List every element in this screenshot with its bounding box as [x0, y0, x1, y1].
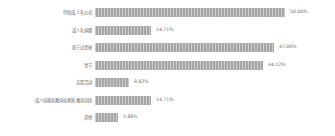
bar-value-label: 44.12%	[268, 61, 286, 68]
bar-value-label: 5.88%	[123, 113, 138, 120]
bar-value-label: 8.82%	[134, 78, 149, 85]
bar-row: 志愿活动 8.82%	[0, 77, 335, 89]
bar[interactable]	[95, 26, 151, 35]
category-label: 其他	[0, 115, 92, 121]
bar[interactable]	[95, 78, 129, 87]
bar-track	[95, 26, 151, 35]
bar-row: 成人礼捐赠 14.71%	[0, 25, 335, 37]
category-label: 成人技能和教育权素质教育训练	[0, 98, 92, 104]
bar-track	[95, 43, 274, 52]
category-label: 志愿活动	[0, 80, 92, 86]
bar-value-label: 47.06%	[279, 43, 297, 50]
category-label: 居宁过里屋	[0, 45, 92, 51]
category-label: 成人礼捐赠	[0, 28, 92, 34]
bar-value-label: 14.71%	[156, 96, 174, 103]
category-label: 传统成人礼仪式	[0, 10, 92, 16]
bar-track	[95, 78, 129, 87]
bar-row: 传统成人礼仪式 50.00%	[0, 7, 335, 19]
category-label: 青节	[0, 63, 92, 69]
bar-row: 居宁过里屋 47.06%	[0, 42, 335, 54]
bar-track	[95, 96, 151, 105]
bar[interactable]	[95, 96, 151, 105]
bar-track	[95, 61, 263, 70]
bar[interactable]	[95, 61, 263, 70]
bar-value-label: 50.00%	[290, 8, 308, 15]
bar[interactable]	[95, 113, 118, 122]
horizontal-bar-chart: 传统成人礼仪式 50.00% 成人礼捐赠 14.71% 居宁过里屋 47.06%…	[0, 0, 335, 136]
bar[interactable]	[95, 8, 285, 17]
bar-track	[95, 8, 285, 17]
plot-area: 传统成人礼仪式 50.00% 成人礼捐赠 14.71% 居宁过里屋 47.06%…	[0, 0, 335, 136]
bar[interactable]	[95, 43, 274, 52]
bar-track	[95, 113, 118, 122]
bar-row: 青节 44.12%	[0, 60, 335, 72]
bar-row: 其他 5.88%	[0, 112, 335, 124]
bar-value-label: 14.71%	[156, 26, 174, 33]
bar-row: 成人技能和教育权素质教育训练 14.71%	[0, 95, 335, 107]
